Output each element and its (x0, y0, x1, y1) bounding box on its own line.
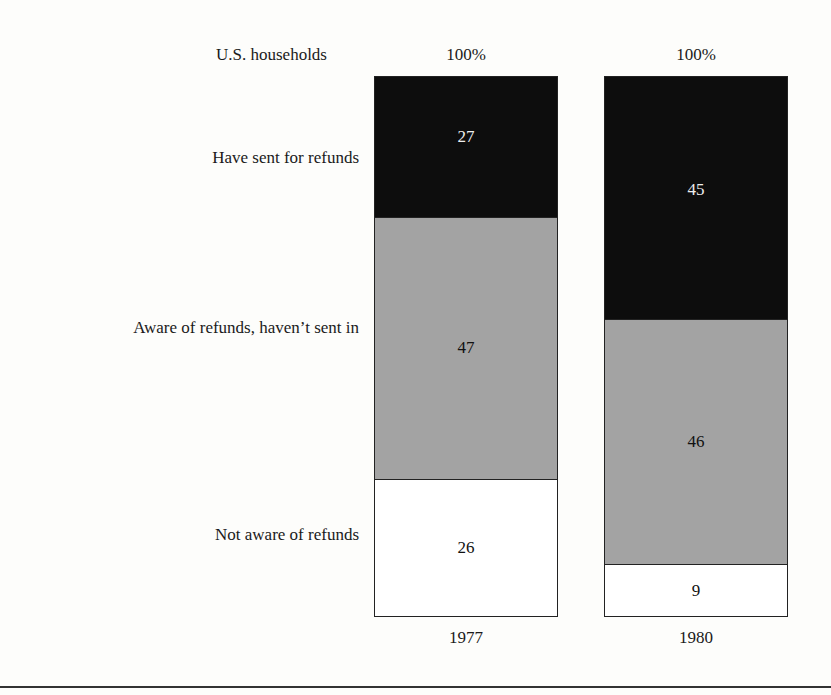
bottom-divider (0, 686, 831, 688)
x-tick-label-1980: 1980 (604, 628, 788, 648)
segment-aware-1980: 46 (605, 319, 787, 564)
value-label: 47 (458, 338, 475, 358)
bar-top-label-1980: 100% (604, 45, 788, 65)
value-label: 45 (688, 180, 705, 200)
x-tick-label-1977: 1977 (374, 628, 558, 648)
stacked-bar-1980: 45 46 9 (604, 76, 788, 617)
segment-aware-1977: 47 (375, 217, 557, 479)
segment-sent-1977: 27 (375, 77, 557, 217)
segment-sent-1980: 45 (605, 77, 787, 319)
value-label: 27 (458, 127, 475, 147)
segment-not-aware-1977: 26 (375, 479, 557, 616)
legend-label-aware: Aware of refunds, haven’t sent in (133, 318, 359, 338)
value-label: 26 (458, 538, 475, 558)
axis-header-label: U.S. households (216, 45, 327, 65)
legend-label-not-aware: Not aware of refunds (215, 525, 359, 545)
segment-not-aware-1980: 9 (605, 564, 787, 616)
legend-label-sent: Have sent for refunds (212, 148, 359, 168)
value-label: 46 (688, 432, 705, 452)
bar-top-label-1977: 100% (374, 45, 558, 65)
value-label: 9 (692, 581, 701, 601)
stacked-bar-1977: 27 47 26 (374, 76, 558, 617)
